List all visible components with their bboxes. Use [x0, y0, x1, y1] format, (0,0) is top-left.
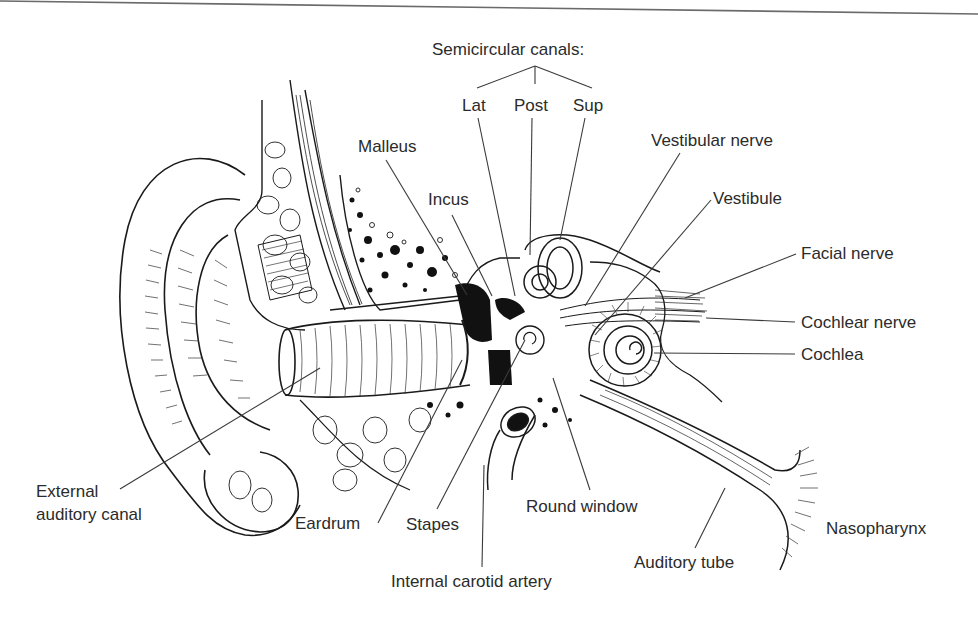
- label-cochlea: Cochlea: [801, 345, 863, 365]
- label-sup: Sup: [573, 96, 603, 116]
- middle-ear: [455, 283, 544, 385]
- external-auditory-canal: [279, 320, 470, 397]
- leader-lat: [478, 118, 515, 296]
- cochlea: [589, 302, 662, 387]
- label-external-auditory-canal: External auditory canal: [36, 480, 142, 526]
- leader-vestibule: [595, 200, 711, 335]
- nerve-bundle: [560, 262, 722, 402]
- leader-sup: [560, 118, 585, 240]
- label-lat: Lat: [462, 96, 486, 116]
- leader-vestibular-nerve: [585, 153, 680, 306]
- auricle: [120, 158, 300, 535]
- label-vestibular-nerve: Vestibular nerve: [651, 131, 773, 151]
- label-auditory-tube: Auditory tube: [634, 553, 734, 573]
- label-post: Post: [514, 96, 548, 116]
- leader-cochlear-nerve: [706, 318, 795, 322]
- semicircular-bracket-lat: [477, 66, 535, 88]
- leader-external-auditory-canal: [120, 368, 320, 489]
- auditory-tube: [580, 380, 818, 570]
- leader-malleus: [386, 160, 467, 295]
- leader-round-window: [553, 378, 590, 490]
- label-vestibule: Vestibule: [713, 189, 782, 209]
- label-facial-nerve: Facial nerve: [801, 244, 894, 264]
- semicircular-bracket-sup: [535, 66, 592, 88]
- leader-eardrum: [378, 360, 462, 523]
- label-cochlear-nerve: Cochlear nerve: [801, 313, 916, 333]
- leader-internal-carotid: [482, 465, 484, 567]
- internal-carotid-artery: [488, 401, 541, 490]
- nasopharynx-fringe: [782, 447, 818, 557]
- label-malleus: Malleus: [358, 137, 417, 157]
- label-semicircular-canals: Semicircular canals:: [432, 40, 584, 60]
- temporal-bone: [330, 175, 520, 310]
- label-internal-carotid-artery: Internal carotid artery: [391, 572, 552, 592]
- leader-cochlea: [654, 353, 795, 354]
- top-rule: [0, 1, 978, 14]
- semicircular-canals: [524, 235, 660, 298]
- label-nasopharynx: Nasopharynx: [826, 519, 926, 539]
- label-stapes: Stapes: [406, 515, 459, 535]
- label-round-window: Round window: [526, 497, 638, 517]
- ear-anatomy-figure: Semicircular canals: Lat Post Sup Malleu…: [0, 0, 978, 630]
- leader-auditory-tube: [695, 488, 725, 548]
- leader-facial-nerve: [685, 254, 796, 298]
- label-eardrum: Eardrum: [295, 514, 360, 534]
- label-incus: Incus: [428, 190, 469, 210]
- leader-post: [530, 118, 532, 255]
